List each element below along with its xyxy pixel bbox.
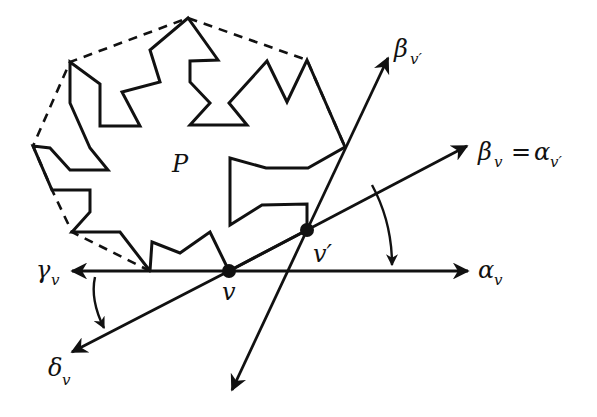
svg-text:v′: v′ bbox=[550, 153, 562, 171]
turn-arrow-right bbox=[372, 185, 392, 265]
ray-delta-v bbox=[72, 271, 229, 352]
svg-text:=: = bbox=[511, 138, 531, 166]
svg-text:δ: δ bbox=[48, 354, 62, 382]
svg-text:α: α bbox=[534, 138, 550, 166]
svg-text:γ: γ bbox=[36, 256, 51, 284]
svg-text:α: α bbox=[478, 256, 494, 284]
ray-beta-v-prime bbox=[307, 58, 388, 230]
label-beta-v-equals-alpha-v-prime: β v = α v′ bbox=[477, 138, 562, 171]
svg-text:v: v bbox=[494, 153, 503, 171]
vertex-label-v-prime: v′ bbox=[313, 240, 333, 268]
svg-text:β: β bbox=[393, 35, 408, 63]
vertex-v-prime-dot bbox=[300, 223, 314, 237]
label-gamma-v: γ v bbox=[36, 256, 60, 289]
svg-text:v′: v′ bbox=[410, 50, 422, 68]
label-beta-v-prime: β v′ bbox=[393, 35, 422, 68]
ray-beta-v-prime-back bbox=[232, 230, 307, 390]
label-delta-v: δ v bbox=[48, 354, 71, 389]
vertex-label-v: v bbox=[222, 278, 236, 306]
label-alpha-v: α v bbox=[478, 256, 503, 289]
polygon-label-p: P bbox=[171, 150, 189, 178]
ray-beta-v bbox=[229, 146, 467, 271]
polygon-diagram: P v v′ α v γ v δ v β v = α v′ β v′ bbox=[0, 0, 597, 417]
turn-arrow-left bbox=[94, 277, 104, 328]
svg-text:v: v bbox=[62, 371, 71, 389]
vertex-v-dot bbox=[222, 264, 236, 278]
svg-text:β: β bbox=[477, 138, 492, 166]
svg-text:v: v bbox=[51, 271, 60, 289]
svg-text:v: v bbox=[494, 271, 503, 289]
